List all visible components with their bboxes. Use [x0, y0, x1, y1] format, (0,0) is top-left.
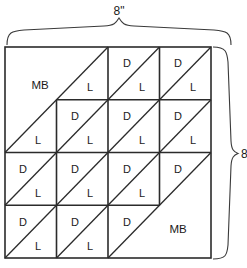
patch-label-r1c3-l: L [139, 81, 145, 93]
patch-label-r1c2-l: L [87, 81, 93, 93]
right-dimension-label: 8" [241, 147, 247, 161]
patch-label-r3c4-d: D [174, 163, 182, 175]
patch-label-r1c3-d: D [123, 57, 131, 69]
patch-label-r3c3-d: D [123, 163, 131, 175]
top-dimension-label: 8" [114, 4, 125, 18]
patch-label-r2c3-l: L [139, 134, 145, 146]
patch-label-r2c4-l: L [190, 134, 196, 146]
patch-label-r3c2-l: L [87, 187, 93, 199]
patch-label-r4c1-l: L [35, 240, 41, 252]
patch-label-r2c1-l: L [35, 134, 41, 146]
patch-label-r4c3-d: D [123, 216, 131, 228]
patch-label-r3c2-d: D [71, 163, 79, 175]
patch-label-r2c2-d: D [71, 110, 79, 122]
quilt-diagram: 8" 8" [0, 0, 247, 268]
patch-label-r3c1-l: L [35, 187, 41, 199]
patch-label-r2c3-d: D [123, 110, 131, 122]
patch-label-r2c4-d: D [174, 110, 182, 122]
patch-label-mb-bottomright: MB [169, 223, 187, 235]
quilt-block-figure: 8" 8" [0, 0, 247, 268]
patch-label-r1c4-d: D [174, 57, 182, 69]
patch-label-mb-topleft: MB [31, 79, 49, 91]
patch-label-r4c2-l: L [87, 240, 93, 252]
patch-label-r4c2-d: D [71, 216, 79, 228]
patch-label-r1c4-l: L [190, 81, 196, 93]
patch-label-r2c2-l: L [87, 134, 93, 146]
patch-label-r4c1-d: D [19, 216, 27, 228]
patch-label-r3c3-l: L [139, 187, 145, 199]
patch-label-r3c1-d: D [19, 163, 27, 175]
